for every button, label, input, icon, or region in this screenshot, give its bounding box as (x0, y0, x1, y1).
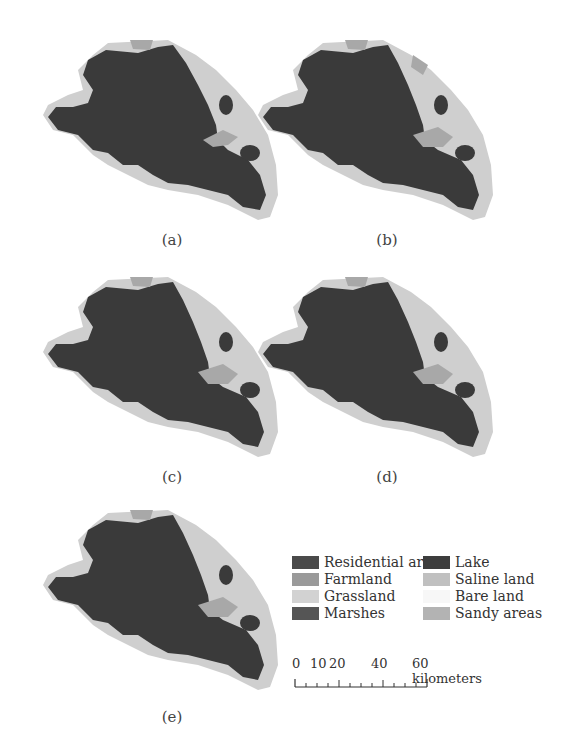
legend-item-saline-land: Saline land (423, 571, 534, 587)
lake-map-c (38, 272, 278, 472)
legend-item-marshes: Marshes (292, 605, 385, 621)
swatch-lake (423, 556, 450, 569)
swatch-bare-land (423, 590, 450, 603)
swatch-marshes (292, 607, 319, 620)
panel-label-e: (e) (142, 708, 202, 726)
legend-item-sandy-areas: Sandy areas (423, 605, 542, 621)
swatch-sandy-areas (423, 607, 450, 620)
swatch-residential (292, 556, 319, 569)
scale-tick-10: 10 (310, 656, 327, 671)
swatch-farmland (292, 573, 319, 586)
legend-item-grassland: Grassland (292, 588, 395, 604)
panel-label-b: (b) (357, 231, 417, 249)
legend-label: Saline land (455, 571, 534, 587)
legend-label: Sandy areas (455, 605, 542, 621)
scale-tick-0: 0 (292, 656, 300, 671)
legend-item-bare-land: Bare land (423, 588, 524, 604)
map-panel-e (38, 505, 278, 705)
panel-label-a: (a) (142, 231, 202, 249)
swatch-grassland (292, 590, 319, 603)
legend-label: Farmland (324, 571, 392, 587)
legend-item-lake: Lake (423, 554, 489, 570)
lake-map-b (253, 35, 493, 235)
scale-ruler (294, 676, 434, 690)
map-panel-d (253, 272, 493, 472)
map-panel-c (38, 272, 278, 472)
lake-map-e (38, 505, 278, 705)
panel-label-c: (c) (142, 468, 202, 486)
panel-label-d: (d) (357, 468, 417, 486)
legend-item-residential: Residential area (292, 554, 440, 570)
map-panel-a (38, 35, 278, 235)
map-panel-b (253, 35, 493, 235)
legend-label: Grassland (324, 588, 395, 604)
swatch-saline-land (423, 573, 450, 586)
legend-label: Bare land (455, 588, 524, 604)
lake-map-a (38, 35, 278, 235)
legend-item-farmland: Farmland (292, 571, 392, 587)
lake-map-d (253, 272, 493, 472)
legend-label: Marshes (324, 605, 385, 621)
scale-tick-20: 20 (329, 656, 346, 671)
scale-tick-40: 40 (371, 656, 388, 671)
legend-label: Lake (455, 554, 489, 570)
